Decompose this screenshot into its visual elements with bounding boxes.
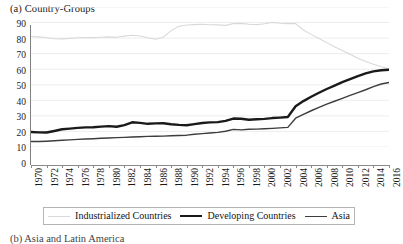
x-tick-label: 1992 (206, 168, 216, 187)
x-tick-label: 2002 (284, 168, 294, 187)
x-tick-label: 1986 (160, 168, 170, 187)
x-tick-label: 1978 (97, 168, 107, 187)
x-tick-label: 2006 (315, 168, 325, 187)
x-tick-label: 2008 (331, 168, 341, 187)
x-tick-mark (93, 165, 94, 168)
x-tick-mark (296, 165, 297, 168)
y-tick-label: 60 (4, 67, 26, 77)
x-tick-label: 2004 (300, 168, 310, 187)
x-tick-mark (249, 165, 250, 168)
x-tick-mark (389, 165, 390, 168)
x-tick-mark (280, 165, 281, 168)
x-tick-label: 1972 (51, 168, 61, 187)
x-tick-mark (342, 165, 343, 168)
chart-series-lines (31, 7, 389, 147)
x-tick-mark (109, 165, 110, 168)
x-tick-mark (47, 165, 48, 168)
x-tick-mark (31, 165, 32, 168)
x-tick-mark (264, 165, 265, 168)
legend-entry-developing-countries[interactable]: Developing Countries (180, 211, 295, 221)
x-tick-mark (62, 165, 63, 168)
x-tick-label: 1988 (175, 168, 185, 187)
x-tick-label: 1994 (222, 168, 232, 187)
y-tick-label: 40 (4, 98, 26, 108)
x-tick-label: 2014 (377, 168, 387, 187)
x-tick-label: 1990 (191, 168, 201, 187)
x-tick-label: 1996 (237, 168, 247, 187)
x-tick-label: 1976 (82, 168, 92, 187)
y-tick-label: 50 (4, 82, 26, 92)
x-tick-mark (358, 165, 359, 168)
x-tick-mark (187, 165, 188, 168)
legend-label: Developing Countries (207, 211, 295, 221)
legend-entry-industrialized-countries[interactable]: Industrialized Countries (48, 211, 171, 221)
y-tick-label: 10 (4, 145, 26, 155)
y-tick-label: 90 (4, 20, 26, 30)
y-tick-label: 70 (4, 51, 26, 61)
legend-swatch-icon (305, 216, 327, 217)
series-line-industrialized-countries (31, 22, 389, 68)
y-tick-label: 30 (4, 114, 26, 124)
x-tick-mark (171, 165, 172, 168)
series-line-asia (31, 82, 389, 141)
x-tick-mark (373, 165, 374, 168)
legend-label: Asia (332, 211, 350, 221)
x-tick-mark (156, 165, 157, 168)
x-tick-mark (202, 165, 203, 168)
chart-legend: Industrialized CountriesDeveloping Count… (43, 207, 355, 225)
chart-plot-area (31, 7, 389, 147)
x-tick-label: 2000 (268, 168, 278, 187)
x-tick-mark (218, 165, 219, 168)
x-axis-line (31, 165, 389, 166)
x-tick-mark (124, 165, 125, 168)
x-tick-label: 1982 (128, 168, 138, 187)
x-tick-label: 1970 (35, 168, 45, 187)
x-tick-mark (140, 165, 141, 168)
x-tick-label: 2012 (362, 168, 372, 187)
x-tick-mark (327, 165, 328, 168)
x-tick-mark (233, 165, 234, 168)
y-tick-label: 80 (4, 36, 26, 46)
legend-label: Industrialized Countries (75, 211, 171, 221)
x-tick-label: 1980 (113, 168, 123, 187)
legend-swatch-icon (48, 216, 70, 217)
legend-entry-asia[interactable]: Asia (305, 211, 350, 221)
x-tick-label: 2016 (393, 168, 403, 187)
y-tick-label: 20 (4, 129, 26, 139)
next-panel-caption: (b) Asia and Latin America (10, 233, 124, 244)
x-tick-label: 1974 (66, 168, 76, 187)
x-tick-mark (311, 165, 312, 168)
x-tick-label: 1984 (144, 168, 154, 187)
y-axis-tick-labels: 0102030405060708090 (0, 18, 26, 173)
x-tick-label: 2010 (346, 168, 356, 187)
x-tick-mark (78, 165, 79, 168)
x-axis-tick-labels: 1970197219741976197819801982198419861988… (0, 168, 396, 204)
legend-swatch-icon (180, 215, 202, 217)
x-tick-label: 1998 (253, 168, 263, 187)
